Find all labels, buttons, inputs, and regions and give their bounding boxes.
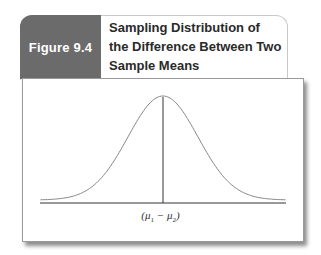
center-tick-label: (μ1 − μ2) [0, 209, 321, 224]
